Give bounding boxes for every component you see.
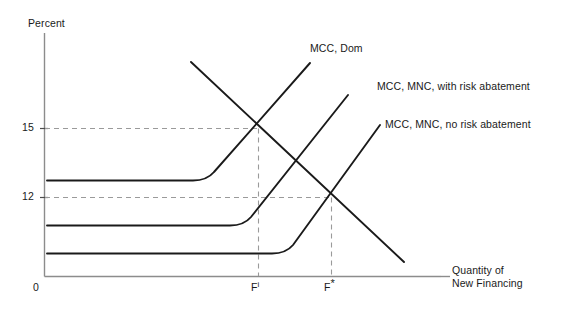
curve-mcc-mnc-no-risk-abatement (47, 125, 380, 254)
x-tick-label-fstar: F* (324, 281, 335, 294)
y-axis-label: Percent (28, 17, 65, 30)
x-tick-label-fstar-superscript: * (331, 277, 335, 289)
x-tick-label-fi-superscript: i (258, 280, 260, 289)
curve-label-mcc-mnc-with-risk-abatement: MCC, MNC, with risk abatement (377, 80, 530, 93)
origin-label: 0 (33, 281, 39, 294)
curve-mcc-mnc-with-risk-abatement (47, 95, 348, 226)
x-axis-label: Quantity of New Financing (452, 264, 523, 290)
curve-label-mcc-dom: MCC, Dom (310, 42, 363, 55)
chart-figure: Percent 15 12 0 Fi F* Quantity of New Fi… (0, 0, 564, 313)
x-axis-label-line1: Quantity of (452, 264, 523, 277)
curve-mcc-dom (47, 63, 310, 181)
curve-label-mcc-mnc-no-risk-abatement: MCC, MNC, no risk abatement (385, 118, 531, 131)
y-tick-label-12: 12 (12, 190, 34, 203)
x-axis-label-line2: New Financing (452, 277, 523, 290)
y-tick-label-15: 15 (12, 121, 34, 134)
x-tick-label-fi: Fi (251, 281, 259, 294)
